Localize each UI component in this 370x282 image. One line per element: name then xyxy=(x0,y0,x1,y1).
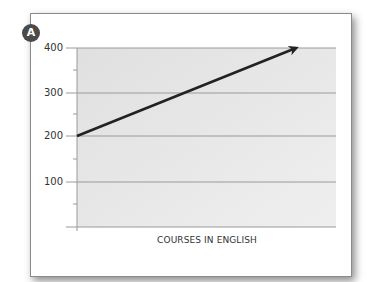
plot-area xyxy=(77,48,336,227)
panel-label-badge: A xyxy=(22,24,40,42)
y-tick-label: 100 xyxy=(33,176,63,187)
x-axis-label: COURSES IN ENGLISH xyxy=(130,235,284,245)
minor-ticks xyxy=(73,70,77,204)
y-tick-label: 300 xyxy=(33,87,63,98)
y-tick-label: 200 xyxy=(33,130,63,141)
y-tick-label: 400 xyxy=(33,42,63,53)
